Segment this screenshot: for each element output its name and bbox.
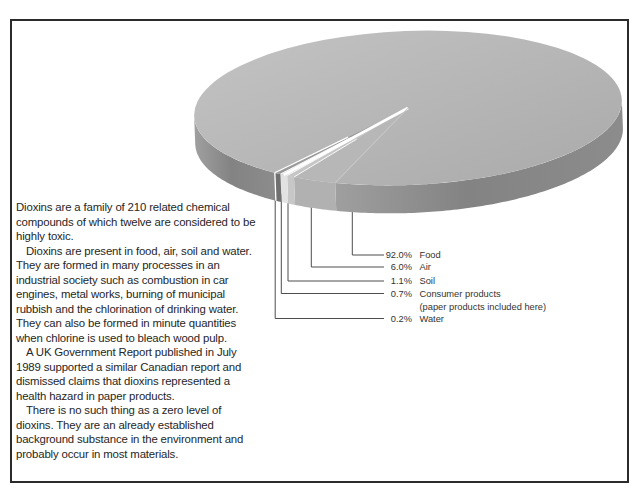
- label-pct-food: 92.0%: [386, 250, 412, 260]
- label-pct-consumer: 0.7%: [391, 289, 412, 299]
- label-name-consumer: Consumer products: [420, 289, 501, 299]
- label-pct-water: 0.2%: [391, 314, 412, 324]
- pie-chart: 92.0%Food6.0%Air1.1%Soil0.7%Consumer pro…: [0, 0, 642, 493]
- label-pct-air: 6.0%: [391, 262, 412, 272]
- label-name-soil: Soil: [420, 276, 436, 286]
- label-name-food: Food: [420, 250, 441, 260]
- label-name-air: Air: [420, 262, 431, 272]
- leader-line-food: [352, 206, 384, 255]
- pie-side-consumer: [280, 174, 288, 204]
- figure-page: Dioxins are a family of 210 related chem…: [0, 0, 642, 493]
- label-pct-soil: 1.1%: [391, 276, 412, 286]
- label-note-consumer: (paper products included here): [420, 302, 547, 312]
- pie-side-soil: [287, 175, 295, 205]
- pie-body: [191, 23, 626, 221]
- label-name-water: Water: [420, 314, 444, 324]
